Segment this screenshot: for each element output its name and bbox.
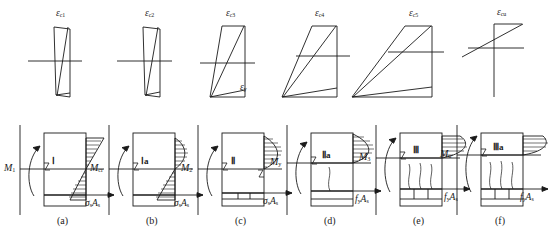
strain-label-3: εc3 xyxy=(226,9,235,19)
caption-b: (b) xyxy=(146,216,158,226)
stage-numeral-c: Ⅱ xyxy=(231,157,235,166)
stage-numeral-d: Ⅱa xyxy=(322,151,331,160)
moment-label-f: Mu xyxy=(440,149,451,160)
strain-label-epsilon-y: εy xyxy=(240,83,247,93)
resultant-label-a: σsAs xyxy=(85,199,100,209)
panel-f xyxy=(457,125,548,215)
stage-numeral-a: Ⅰ xyxy=(52,157,55,166)
strain-label-6: εcu xyxy=(497,8,506,18)
moment-label-d: My xyxy=(270,157,281,168)
resultant-label-b: σsAs xyxy=(174,199,189,209)
caption-e: (e) xyxy=(413,216,424,226)
stage-numeral-f: Ⅲa xyxy=(493,143,504,152)
strain-diagram-5 xyxy=(352,26,444,97)
resultant-label-c: σsAs xyxy=(263,197,278,207)
strain-diagram-6 xyxy=(462,24,524,97)
strain-label-1: εc1 xyxy=(56,9,65,19)
strain-diagram-4 xyxy=(282,26,350,97)
strain-diagram-1 xyxy=(28,27,82,97)
caption-f: (f) xyxy=(495,216,505,226)
resultant-label-d: fyAs xyxy=(355,195,369,205)
caption-a: (a) xyxy=(57,216,68,226)
moment-label-c: M2 xyxy=(181,163,192,174)
strain-diagram-2 xyxy=(117,27,172,97)
strain-diagram-3 xyxy=(200,26,255,97)
stage-numeral-e: Ⅲ xyxy=(413,146,419,155)
strain-label-4: εc4 xyxy=(315,9,324,19)
strain-label-2: εc2 xyxy=(145,9,154,19)
caption-d: (d) xyxy=(324,216,336,226)
moment-label-e: M3 xyxy=(359,152,370,163)
caption-c: (c) xyxy=(235,216,246,226)
moment-label-b: Mcr xyxy=(90,163,103,174)
resultant-label-f: fyAs xyxy=(520,193,534,203)
moment-label-a: M1 xyxy=(4,163,15,174)
strain-label-5: εc5 xyxy=(409,9,418,19)
stage-numeral-b: Ⅰa xyxy=(141,157,149,166)
resultant-label-e: fyAs xyxy=(444,193,458,203)
